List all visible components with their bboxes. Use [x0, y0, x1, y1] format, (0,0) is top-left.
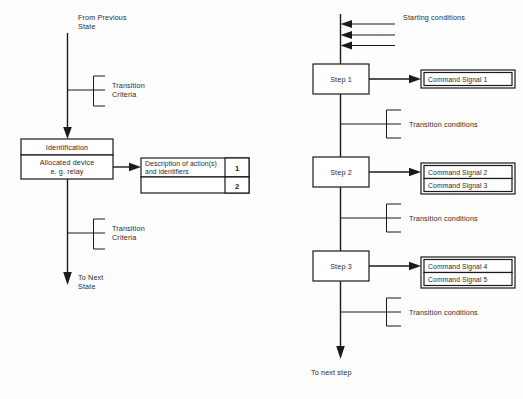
action-table-row-0-description-line1: Description of action(s) — [145, 160, 217, 168]
right-step-diagram: Starting conditions Step 1 Command Signa… — [311, 13, 515, 377]
starting-condition-arrowhead-3 — [341, 42, 353, 50]
starting-condition-arrowhead-2 — [341, 31, 353, 39]
spine-exit-arrowhead — [336, 346, 345, 359]
step-2-command-arrowhead — [409, 168, 421, 176]
state-to-action-arrowhead — [129, 163, 141, 171]
state-box-body-label-line2: e. g. relay — [50, 167, 83, 176]
left-state-diagram: From Previous State Transition Criteria … — [21, 13, 249, 291]
step-2-group[interactable]: Step 2 Command Signal 2 Command Signal 3 — [313, 157, 515, 194]
step-1-command-arrowhead — [409, 75, 421, 83]
step-2-transition-label: Transition conditions — [409, 214, 478, 223]
transition-criteria-bottom-bracket — [94, 219, 106, 249]
to-next-step-label: To next step — [311, 368, 352, 377]
from-previous-state-label-line1: From Previous — [78, 13, 127, 22]
starting-condition-arrowhead-1 — [341, 20, 353, 28]
step-3-command-arrowhead — [409, 262, 421, 270]
step-3-group[interactable]: Step 3 Command Signal 4 Command Signal 5 — [313, 251, 515, 288]
starting-conditions-group — [341, 20, 396, 50]
step-2-command-0-label: Command Signal 2 — [428, 169, 488, 177]
step-2-command-1-label: Command Signal 3 — [428, 182, 488, 190]
step-3-command-0-label: Command Signal 4 — [428, 263, 488, 271]
transition-criteria-top-label-line1: Transition — [112, 81, 145, 90]
step-1-transition-label: Transition conditions — [409, 120, 478, 129]
sequence-diagram-canvas: From Previous State Transition Criteria … — [0, 0, 523, 399]
step-3-transition-conditions — [341, 298, 402, 326]
action-table[interactable]: Description of action(s) and identifiers… — [141, 158, 249, 193]
from-previous-state-label-line2: State — [78, 22, 96, 31]
exit-arrowhead — [63, 272, 72, 285]
transition-criteria-bottom-label-line2: Criteria — [112, 233, 136, 242]
transition-criteria-top-label-line2: Criteria — [112, 90, 136, 99]
step-2-transition-conditions — [341, 204, 402, 232]
step-2-label: Step 2 — [330, 168, 352, 177]
step-1-label: Step 1 — [330, 75, 352, 84]
step-3-command-1-label: Command Signal 5 — [428, 276, 488, 284]
transition-criteria-top-bracket — [94, 76, 106, 106]
transition-criteria-bottom-label-line1: Transition — [112, 224, 145, 233]
state-box-header-label: Identification — [46, 143, 88, 152]
to-next-state-label-line1: To Next — [78, 273, 103, 282]
step-1-group[interactable]: Step 1 Command Signal 1 — [313, 64, 515, 94]
action-table-row-0-description-line2: and identifiers — [145, 168, 189, 175]
entry-arrowhead — [63, 127, 72, 139]
step-1-transition-conditions — [341, 110, 402, 138]
action-table-row-1-identifier: 2 — [235, 182, 239, 191]
step-3-label: Step 3 — [330, 262, 352, 271]
state-box-body-label-line1: Allocated device — [40, 158, 95, 167]
to-next-state-label-line2: State — [78, 282, 96, 291]
starting-conditions-label: Starting conditions — [403, 13, 465, 22]
state-box[interactable]: Identification Allocated device e. g. re… — [21, 139, 113, 179]
step-1-command-0-label: Command Signal 1 — [428, 76, 488, 84]
step-3-transition-label: Transition conditions — [409, 308, 478, 317]
